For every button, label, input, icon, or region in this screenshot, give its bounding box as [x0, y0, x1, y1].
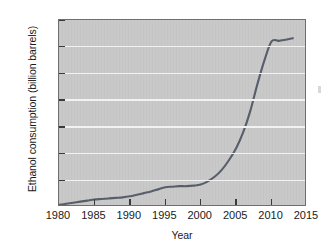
data-line-ethanol-consumption [59, 20, 305, 205]
x-tick-1990 [129, 199, 131, 205]
y-tick-350 [59, 20, 65, 21]
y-axis-title: Ethanol consumption (billion barrels) [26, 0, 38, 224]
gridline-y-250 [59, 73, 305, 75]
gridline-y-150 [59, 126, 305, 128]
chart-figure: Ethanol consumption (billion barrels) 05… [0, 0, 329, 252]
gridline-y-100 [59, 153, 305, 155]
y-tick-150 [59, 126, 65, 128]
x-tick-2005 [235, 199, 237, 205]
gridline-y-200 [59, 99, 305, 101]
x-tick-label-2015: 2015 [283, 209, 329, 221]
y-tick-250 [59, 73, 65, 75]
x-tick-1995 [165, 199, 167, 205]
x-tick-1985 [94, 199, 96, 205]
y-tick-200 [59, 99, 65, 101]
x-tick-2000 [200, 199, 202, 205]
x-axis-title: Year [58, 229, 306, 241]
y-tick-300 [59, 46, 65, 48]
x-tick-2010 [271, 199, 273, 205]
gridline-y-50 [59, 180, 305, 182]
y-tick-50 [59, 180, 65, 182]
gridline-y-300 [59, 46, 305, 48]
scan-artifact [318, 86, 321, 93]
y-tick-100 [59, 153, 65, 155]
plot-inner [59, 20, 305, 205]
plot-area [58, 19, 306, 206]
